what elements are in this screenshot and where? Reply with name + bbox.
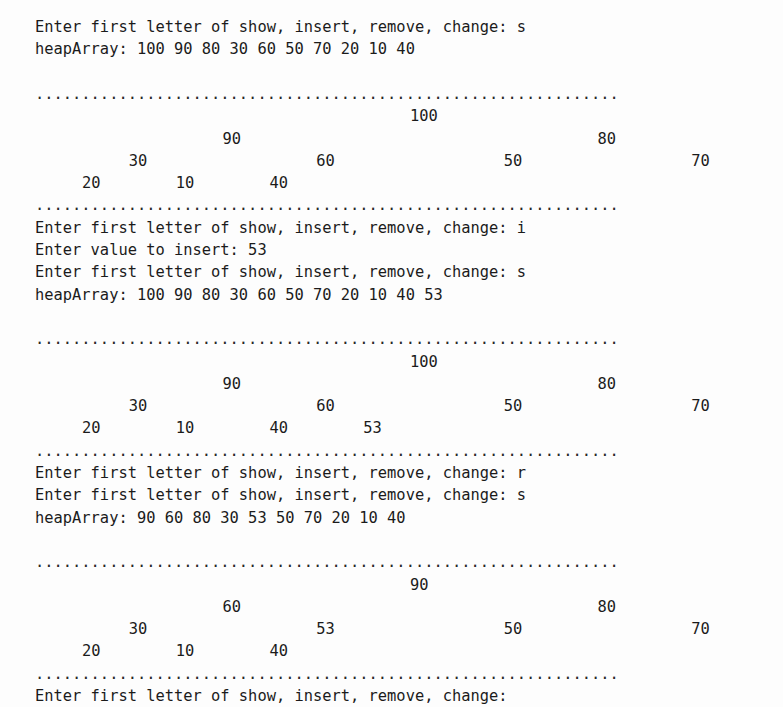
heap-tree-level: 100 xyxy=(35,351,775,373)
console-line: Enter first letter of show, insert, remo… xyxy=(35,261,526,283)
heap-tree-level: 30535070 xyxy=(35,618,775,640)
heap-node: 10 xyxy=(176,172,195,194)
console-line: Enter first letter of show, insert, remo… xyxy=(35,685,508,707)
heap-node: 50 xyxy=(504,395,523,417)
heap-node: 30 xyxy=(129,618,148,640)
console-line: Enter value to insert: 53 xyxy=(35,239,267,261)
console-line: heapArray: 100 90 80 30 60 50 70 20 10 4… xyxy=(35,38,415,60)
heap-node: 70 xyxy=(691,150,710,172)
separator-line: ........................................… xyxy=(35,328,619,350)
heap-node: 10 xyxy=(176,640,195,662)
separator-line: ........................................… xyxy=(35,83,619,105)
heap-tree-level: 20104053 xyxy=(35,417,775,439)
heap-node: 80 xyxy=(598,373,617,395)
heap-node: 20 xyxy=(82,417,101,439)
heap-tree-level: 30605070 xyxy=(35,150,775,172)
heap-tree-level: 201040 xyxy=(35,172,775,194)
heap-tree-level: 201040 xyxy=(35,640,775,662)
console-line: Enter first letter of show, insert, remo… xyxy=(35,16,526,38)
heap-node: 100 xyxy=(410,105,438,127)
terminal-console[interactable]: Enter first letter of show, insert, remo… xyxy=(0,0,783,707)
heap-tree-level: 9080 xyxy=(35,373,775,395)
heap-node: 10 xyxy=(176,417,195,439)
heap-node: 40 xyxy=(269,172,288,194)
heap-node: 80 xyxy=(598,128,617,150)
heap-node: 70 xyxy=(691,618,710,640)
heap-node: 60 xyxy=(223,596,242,618)
heap-node: 60 xyxy=(316,150,335,172)
heap-tree-level: 30605070 xyxy=(35,395,775,417)
heap-node: 90 xyxy=(410,574,429,596)
console-line: Enter first letter of show, insert, remo… xyxy=(35,217,526,239)
console-line: heapArray: 100 90 80 30 60 50 70 20 10 4… xyxy=(35,284,443,306)
heap-node: 80 xyxy=(598,596,617,618)
heap-node: 100 xyxy=(410,351,438,373)
heap-tree-level: 9080 xyxy=(35,128,775,150)
heap-node: 40 xyxy=(269,640,288,662)
heap-node: 30 xyxy=(129,150,148,172)
heap-node: 30 xyxy=(129,395,148,417)
heap-node: 60 xyxy=(316,395,335,417)
heap-node: 53 xyxy=(316,618,335,640)
console-line: Enter first letter of show, insert, remo… xyxy=(35,484,526,506)
heap-node: 20 xyxy=(82,640,101,662)
console-line: Enter first letter of show, insert, remo… xyxy=(35,462,526,484)
heap-tree-level: 6080 xyxy=(35,596,775,618)
heap-node: 90 xyxy=(223,373,242,395)
console-line: heapArray: 90 60 80 30 53 50 70 20 10 40 xyxy=(35,507,406,529)
heap-node: 20 xyxy=(82,172,101,194)
separator-line: ........................................… xyxy=(35,194,619,216)
heap-node: 53 xyxy=(363,417,382,439)
heap-node: 40 xyxy=(269,417,288,439)
heap-tree-level: 90 xyxy=(35,574,775,596)
separator-line: ........................................… xyxy=(35,551,619,573)
heap-node: 50 xyxy=(504,150,523,172)
heap-node: 50 xyxy=(504,618,523,640)
separator-line: ........................................… xyxy=(35,663,619,685)
heap-node: 70 xyxy=(691,395,710,417)
heap-node: 90 xyxy=(223,128,242,150)
heap-tree-level: 100 xyxy=(35,105,775,127)
separator-line: ........................................… xyxy=(35,440,619,462)
